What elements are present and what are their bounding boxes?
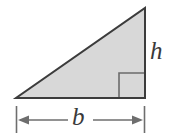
height-label: h — [150, 38, 163, 63]
arrow-right-icon — [132, 116, 143, 125]
arrow-left-icon — [18, 116, 29, 125]
right-triangle-shape — [16, 8, 145, 98]
figure-canvas — [0, 0, 174, 139]
geometry-figure: h b — [0, 0, 174, 139]
base-label: b — [72, 104, 85, 129]
